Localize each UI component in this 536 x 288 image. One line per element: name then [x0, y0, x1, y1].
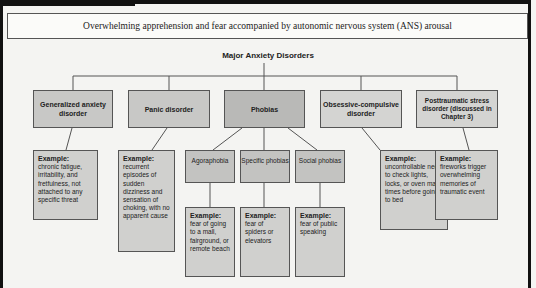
disorder-name: Obsessive-compulsive disorder	[323, 100, 399, 118]
example-box-ptsd: Example: fireworks trigger overwhelming …	[435, 150, 498, 220]
example-text: fear of public speaking	[300, 220, 337, 235]
example-box-social-phobias: Example: fear of public speaking	[295, 207, 345, 277]
subtype-name: Social phobias	[299, 157, 341, 166]
disorder-name: Phobias	[251, 105, 278, 114]
example-label: Example:	[300, 212, 341, 220]
example-box-panic: Example: recurrent episodes of sudden di…	[118, 150, 175, 252]
example-label: Example:	[190, 212, 231, 220]
example-label: Example:	[123, 155, 171, 163]
example-box-gad: Example: chronic fatigue, irritability, …	[33, 150, 98, 220]
disorder-name: Posttraumatic stress disorder (discussed…	[419, 97, 495, 121]
example-label: Example:	[38, 155, 94, 163]
example-text: fear of going to a mall, fairground, or …	[190, 220, 230, 252]
disorder-box-phobias: Phobias	[224, 90, 305, 128]
example-label: Example:	[440, 155, 494, 163]
example-text: fear of spiders or elevators	[245, 220, 274, 243]
example-text: fireworks trigger overwhelming memories …	[440, 163, 486, 195]
disorder-box-panic: Panic disorder	[128, 90, 210, 128]
phobia-subtype-specific: Specific phobias	[240, 150, 290, 183]
subtype-name: Agoraphobia	[192, 157, 229, 166]
example-text: recurrent episodes of sudden dizziness a…	[123, 163, 170, 219]
subtype-name: Specific phobias	[241, 157, 288, 166]
example-label: Example:	[245, 212, 286, 220]
example-text: chronic fatigue, irritability, and fretf…	[38, 163, 82, 203]
phobia-subtype-agoraphobia: Agoraphobia	[185, 150, 235, 183]
disorder-box-ptsd: Posttraumatic stress disorder (discussed…	[416, 90, 498, 128]
phobia-subtype-social: Social phobias	[295, 150, 345, 183]
disorder-box-gad: Generalized anxiety disorder	[33, 90, 113, 128]
disorder-box-ocd: Obsessive-compulsive disorder	[320, 90, 402, 128]
example-box-agoraphobia: Example: fear of going to a mall, fairgr…	[185, 207, 235, 277]
disorder-name: Generalized anxiety disorder	[36, 100, 110, 118]
example-box-specific-phobias: Example: fear of spiders or elevators	[240, 207, 290, 277]
disorder-name: Panic disorder	[145, 105, 194, 114]
